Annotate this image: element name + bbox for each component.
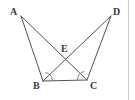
vertex-label-A: A (10, 6, 18, 17)
vertex-label-E: E (61, 43, 68, 54)
geometry-diagram: A D E B C (0, 0, 135, 100)
vertex-label-D: D (113, 6, 120, 17)
segment-BC (43, 80, 87, 81)
geometry-figure: A D E B C (0, 0, 135, 100)
vertex-label-C: C (90, 80, 97, 91)
segment-DB (43, 16, 111, 81)
vertex-label-B: B (33, 80, 40, 91)
panel-right-border (128, 0, 129, 100)
angle-mark-B (46, 73, 53, 81)
segment-AB (21, 16, 43, 81)
segment-DC (87, 16, 111, 80)
